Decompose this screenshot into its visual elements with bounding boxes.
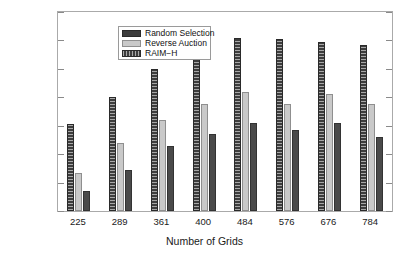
bar-reverse-auction-784 (368, 104, 375, 211)
y-tick-right (386, 211, 392, 212)
legend-label-raim-h: RAIM−H (145, 49, 177, 59)
bar-group (58, 12, 392, 211)
bar-random-selection-784 (376, 137, 383, 211)
x-axis-tick-label: 289 (97, 216, 143, 227)
x-axis-tick-label: 676 (305, 216, 351, 227)
legend-swatch-random-selection (122, 30, 141, 37)
x-axis-tick-label: 784 (347, 216, 393, 227)
legend-swatch-raim-h (122, 50, 141, 57)
y-tick (58, 211, 64, 212)
bar-chart-figure: Weighted Social Welfare Random Selection… (0, 0, 409, 262)
x-axis-tick-label: 225 (55, 216, 101, 227)
bar-raim-h-784 (360, 45, 367, 211)
legend-item-raim-h: RAIM−H (122, 49, 207, 59)
x-axis-tick-label: 361 (138, 216, 184, 227)
plot-area: Random Selection Reverse Auction RAIM−H (57, 11, 393, 212)
x-axis-title: Number of Grids (0, 235, 409, 247)
chart-legend: Random Selection Reverse Auction RAIM−H (118, 26, 211, 60)
x-axis-tick-label: 576 (264, 216, 310, 227)
x-axis-tick-label: 400 (180, 216, 226, 227)
legend-swatch-reverse-auction (122, 40, 141, 47)
x-axis-tick-label: 484 (222, 216, 268, 227)
